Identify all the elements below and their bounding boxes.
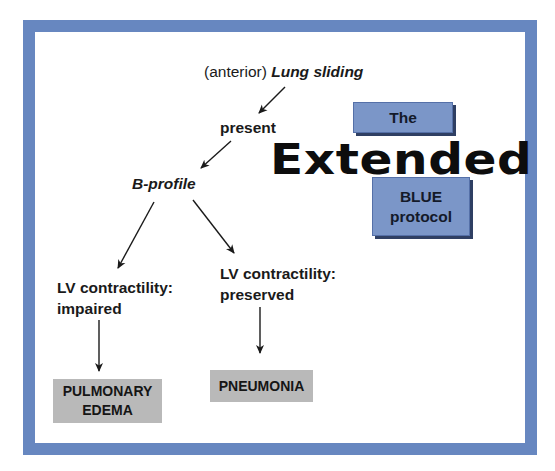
arrow-bprofile-to-impaired [118,202,154,268]
outcome-pulmonary-edema: PULMONARY EDEMA [53,379,162,423]
title-the-text: The [389,108,417,128]
lv-preserved-line1: LV contractility: [220,263,336,284]
outcome-pneumonia-text: PNEUMONIA [219,377,305,396]
node-lv-impaired: LV contractility: impaired [57,277,173,319]
outcome-pe-line1: PULMONARY [63,382,153,401]
arrow-lung-to-present [259,87,285,113]
node-b-profile: B-profile [132,175,196,193]
lv-preserved-line2: preserved [220,284,336,305]
lung-sliding-label: Lung sliding [271,63,363,80]
lv-impaired-line2: impaired [57,298,173,319]
lv-impaired-line1: LV contractility: [57,277,173,298]
title-box-the: The [353,102,453,133]
node-lung-sliding: (anterior) Lung sliding [204,63,363,81]
title-protocol-text: protocol [390,207,452,227]
arrow-present-to-bprofile [201,141,231,168]
arrow-bprofile-to-preserved [193,200,234,253]
node-present: present [220,119,276,137]
node-lv-preserved: LV contractility: preserved [220,263,336,305]
title-box-blue-protocol: BLUE protocol [372,177,470,236]
title-blue-text: BLUE [400,187,442,207]
outcome-pe-line2: EDEMA [82,401,133,420]
outcome-pneumonia: PNEUMONIA [210,370,313,402]
lung-sliding-prefix: (anterior) [204,63,267,80]
